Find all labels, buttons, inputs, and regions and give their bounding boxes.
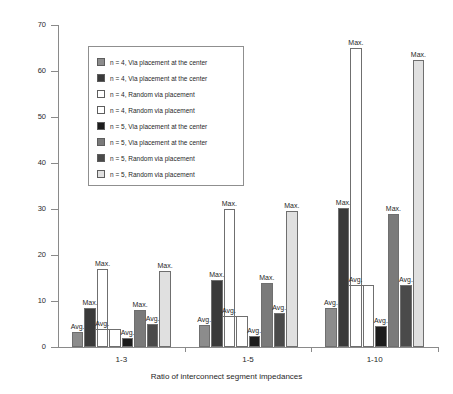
y-tick-mark bbox=[51, 25, 58, 26]
bar bbox=[325, 308, 337, 347]
legend-item-label: n = 5, Random via placement bbox=[110, 171, 195, 178]
bar bbox=[261, 283, 273, 347]
bar-avg-label: Avg. bbox=[95, 320, 109, 327]
legend-item: n = 5, Random via placement bbox=[97, 166, 243, 182]
bar bbox=[338, 208, 350, 347]
bar bbox=[249, 336, 261, 348]
bar-max-label: Max. bbox=[94, 260, 112, 267]
y-tick-mark bbox=[51, 255, 58, 256]
legend-item: n = 4, Random via placement bbox=[97, 86, 243, 102]
x-tick-mark bbox=[311, 347, 312, 352]
bar bbox=[159, 271, 171, 347]
legend-item-label: n = 4, Random via placement bbox=[110, 91, 195, 98]
x-tick-mark bbox=[438, 347, 439, 352]
bar bbox=[375, 326, 387, 347]
y-tick-mark bbox=[51, 71, 58, 72]
legend-item-label: n = 5, Random via placement bbox=[110, 155, 195, 162]
avg-leader-line bbox=[95, 329, 121, 330]
bar bbox=[363, 285, 375, 347]
bar bbox=[274, 313, 286, 348]
legend-item-label: n = 5, Via placement at the center bbox=[110, 139, 207, 146]
bar-max-label: Max. bbox=[131, 301, 149, 308]
x-axis-line bbox=[58, 347, 438, 348]
x-tick-label: 1-5 bbox=[218, 355, 278, 364]
y-tick-mark bbox=[51, 163, 58, 164]
legend-item: n = 4, Via placement at the center bbox=[97, 54, 243, 70]
bar bbox=[97, 269, 109, 347]
legend-swatch-icon bbox=[97, 74, 105, 82]
y-tick-mark bbox=[51, 347, 58, 348]
legend-item-label: n = 4, Random via placement bbox=[110, 107, 195, 114]
bar-max-label: Max. bbox=[409, 51, 427, 58]
bar-max-label: Max. bbox=[283, 202, 301, 209]
y-tick-mark bbox=[51, 301, 58, 302]
legend-swatch-icon bbox=[97, 154, 105, 162]
legend-swatch-icon bbox=[97, 138, 105, 146]
bar bbox=[84, 308, 96, 347]
legend-swatch-icon bbox=[97, 90, 105, 98]
y-axis-title-wrap: Improvement in delay [%] bbox=[22, 120, 32, 300]
bar bbox=[400, 285, 412, 347]
y-tick-mark bbox=[51, 117, 58, 118]
bar-avg-label: Avg. bbox=[349, 276, 363, 283]
y-tick-mark bbox=[51, 209, 58, 210]
bar bbox=[350, 48, 362, 347]
x-tick-label: 1-3 bbox=[91, 355, 151, 364]
legend-item: n = 4, Random via placement bbox=[97, 102, 243, 118]
bar bbox=[413, 60, 425, 348]
legend-swatch-icon bbox=[97, 170, 105, 178]
bar bbox=[286, 211, 298, 347]
y-tick-label: 70 bbox=[16, 20, 46, 29]
x-tick-label: 1-10 bbox=[345, 355, 405, 364]
bar bbox=[72, 332, 84, 347]
bar-avg-label: Avg. bbox=[222, 307, 236, 314]
legend-item: n = 5, Via placement at the center bbox=[97, 118, 243, 134]
avg-leader-line bbox=[222, 316, 248, 317]
legend-swatch-icon bbox=[97, 122, 105, 130]
bar-max-label: Max. bbox=[384, 205, 402, 212]
bar bbox=[147, 324, 159, 347]
y-tick-label: 60 bbox=[16, 66, 46, 75]
legend-swatch-icon bbox=[97, 58, 105, 66]
bar-max-label: Max. bbox=[258, 274, 276, 281]
bar bbox=[122, 338, 134, 347]
bar bbox=[199, 325, 211, 347]
legend-item: n = 4, Via placement at the center bbox=[97, 70, 243, 86]
legend-swatch-icon bbox=[97, 106, 105, 114]
x-tick-mark bbox=[185, 347, 186, 352]
bar-max-label: Max. bbox=[347, 39, 365, 46]
legend-item-label: n = 4, Via placement at the center bbox=[110, 75, 207, 82]
x-axis-title: Ratio of interconnect segment impedances bbox=[0, 372, 453, 381]
legend-item: n = 5, Random via placement bbox=[97, 150, 243, 166]
chart-legend: n = 4, Via placement at the centern = 4,… bbox=[88, 46, 244, 186]
y-tick-label: 0 bbox=[16, 342, 46, 351]
avg-leader-line bbox=[349, 285, 375, 286]
chart-figure: 010203040506070 Improvement in delay [%]… bbox=[0, 0, 453, 394]
bar bbox=[211, 280, 223, 347]
legend-item-label: n = 4, Via placement at the center bbox=[110, 59, 207, 66]
bar bbox=[224, 209, 236, 347]
bar-max-label: Max. bbox=[220, 200, 238, 207]
legend-item: n = 5, Via placement at the center bbox=[97, 134, 243, 150]
legend-item-label: n = 5, Via placement at the center bbox=[110, 123, 207, 130]
bar-max-label: Max. bbox=[156, 262, 174, 269]
